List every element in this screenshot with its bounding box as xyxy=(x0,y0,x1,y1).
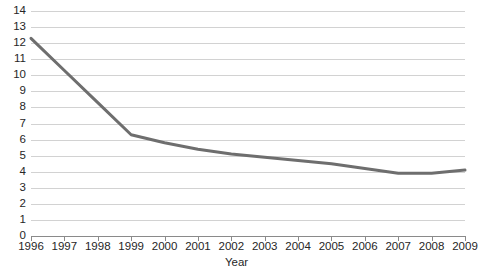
x-axis-tick-label: 2001 xyxy=(185,241,211,253)
x-axis-title: Year xyxy=(0,256,473,268)
x-axis-tick-label: 1998 xyxy=(85,241,111,253)
x-axis-tick-label: 2008 xyxy=(419,241,445,253)
x-axis-tick-label: 2006 xyxy=(352,241,378,253)
y-axis-tick-labels: 01234567891011121314 xyxy=(0,11,26,236)
plot-area xyxy=(31,11,465,236)
y-axis-tick-label: 14 xyxy=(13,5,26,17)
y-axis-tick-label: 13 xyxy=(13,21,26,33)
x-axis-tick-labels: 1996199719981999200020012002200320042005… xyxy=(31,241,465,257)
x-axis-tick-label: 2003 xyxy=(252,241,278,253)
x-axis-tick-label: 1997 xyxy=(52,241,78,253)
y-axis-tick-label: 9 xyxy=(20,86,26,98)
x-axis-tick-label: 2007 xyxy=(385,241,411,253)
y-axis-tick-label: 6 xyxy=(20,134,26,146)
x-axis-tick-label: 1996 xyxy=(18,241,44,253)
y-axis-tick-label: 8 xyxy=(20,102,26,114)
x-axis-tick-label: 1999 xyxy=(118,241,144,253)
y-axis-tick-label: 4 xyxy=(20,166,26,178)
x-axis-tick-label: 2002 xyxy=(219,241,245,253)
y-axis-tick-label: 2 xyxy=(20,198,26,210)
y-axis-tick-label: 11 xyxy=(14,53,26,65)
x-axis-tick-label: 2000 xyxy=(152,241,178,253)
x-axis-tick-label: 2004 xyxy=(285,241,311,253)
y-axis-tick-label: 12 xyxy=(13,37,26,49)
series-line-1 xyxy=(31,38,465,173)
y-axis-tick-label: 10 xyxy=(13,70,26,82)
x-axis-tick-label: 2009 xyxy=(452,241,478,253)
series-line-group xyxy=(31,11,465,236)
y-axis-tick-label: 7 xyxy=(20,118,26,130)
x-axis-tick-label: 2005 xyxy=(319,241,345,253)
y-axis-tick-label: 1 xyxy=(20,214,26,226)
y-axis-tick-label: 3 xyxy=(20,182,26,194)
y-axis-tick-label: 5 xyxy=(20,150,26,162)
